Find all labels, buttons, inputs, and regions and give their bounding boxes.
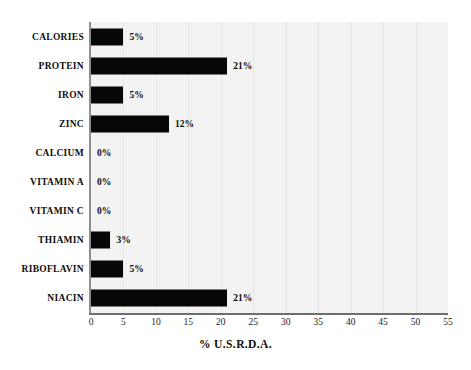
x-tick-label: 40 — [346, 317, 356, 327]
x-tick-label: 0 — [89, 317, 94, 327]
bar-value-label: 3% — [116, 235, 130, 245]
category-label: CALORIES — [0, 32, 84, 42]
category-label: ZINC — [0, 119, 84, 129]
bar — [91, 57, 227, 74]
category-label: THIAMIN — [0, 235, 84, 245]
bar-value-label: 5% — [129, 264, 143, 274]
bar-row: VITAMIN C0% — [0, 197, 471, 226]
bar — [91, 115, 169, 132]
x-tick-label: 10 — [151, 317, 161, 327]
bar-row: VITAMIN A0% — [0, 168, 471, 197]
bar-row: RIBOFLAVIN5% — [0, 255, 471, 284]
x-tick-label: 50 — [411, 317, 421, 327]
x-tick-label: 15 — [184, 317, 194, 327]
bar-value-label: 0% — [97, 148, 111, 158]
bar — [91, 261, 123, 278]
bar-value-label: 21% — [233, 293, 252, 303]
x-tick-label: 35 — [313, 317, 323, 327]
bar — [91, 232, 110, 249]
x-tick-label: 20 — [216, 317, 226, 327]
category-label: VITAMIN A — [0, 177, 84, 187]
bar-row: PROTEIN21% — [0, 51, 471, 80]
category-label: IRON — [0, 90, 84, 100]
bar-row: CALORIES5% — [0, 22, 471, 51]
bar — [91, 290, 227, 307]
x-tick-label: 30 — [281, 317, 291, 327]
x-tick-label: 25 — [249, 317, 259, 327]
category-label: NIACIN — [0, 293, 84, 303]
bar-row: ZINC12% — [0, 109, 471, 138]
bar-value-label: 5% — [129, 32, 143, 42]
x-tick-label: 5 — [121, 317, 126, 327]
bar-row: IRON5% — [0, 80, 471, 109]
x-axis-line — [89, 313, 448, 315]
x-tick-label: 55 — [443, 317, 453, 327]
bar-row: NIACIN21% — [0, 284, 471, 313]
bar — [91, 86, 123, 103]
bar-value-label: 12% — [175, 119, 194, 129]
bar-chart: CALORIES5%PROTEIN21%IRON5%ZINC12%CALCIUM… — [0, 0, 471, 370]
bar-value-label: 5% — [129, 90, 143, 100]
bar-value-label: 21% — [233, 61, 252, 71]
bar-value-label: 0% — [97, 206, 111, 216]
bar-value-label: 0% — [97, 177, 111, 187]
bar-row: CALCIUM0% — [0, 138, 471, 167]
x-tick-label: 45 — [378, 317, 388, 327]
category-label: VITAMIN C — [0, 206, 84, 216]
bar-row: THIAMIN3% — [0, 226, 471, 255]
category-label: RIBOFLAVIN — [0, 264, 84, 274]
category-label: CALCIUM — [0, 148, 84, 158]
x-axis-title: % U.S.R.D.A. — [0, 338, 471, 350]
bar — [91, 28, 123, 45]
category-label: PROTEIN — [0, 61, 84, 71]
